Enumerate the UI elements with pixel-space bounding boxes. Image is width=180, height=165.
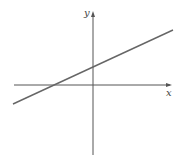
x-axis-label: x [166,87,172,98]
y-axis-label: y [83,7,90,18]
graph: y x [0,0,180,165]
y-axis-arrow-icon [91,11,95,17]
